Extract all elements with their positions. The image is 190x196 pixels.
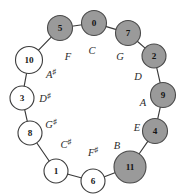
node-4[interactable]: 4	[143, 119, 168, 144]
node-11-label: 11	[126, 162, 135, 172]
node-2[interactable]: 2	[142, 44, 166, 68]
nodes-group: 07294116183105	[10, 11, 176, 194]
node-8-label: 8	[28, 128, 33, 138]
node-4-label: 4	[153, 126, 158, 136]
edge-11-6	[104, 172, 116, 176]
node-9[interactable]: 9	[151, 83, 176, 108]
edge-9-4	[158, 107, 161, 120]
edge-2-9	[157, 67, 161, 83]
note-G: G	[116, 51, 124, 62]
edge-3-10	[24, 73, 27, 87]
edge-1-8	[36, 142, 49, 161]
node-8[interactable]: 8	[18, 121, 42, 145]
edge-5-0	[72, 25, 82, 27]
edge-0-7	[106, 26, 117, 29]
node-1-label: 1	[54, 166, 59, 176]
note-Gsharp: G♯	[45, 117, 57, 130]
node-0[interactable]: 0	[82, 11, 107, 36]
edge-6-1	[67, 174, 82, 178]
node-2-label: 2	[152, 51, 157, 61]
node-9-label: 9	[161, 90, 166, 100]
node-7-label: 7	[126, 28, 131, 38]
edge-4-11	[139, 141, 148, 154]
note-A: A	[139, 97, 147, 108]
note-F: F	[64, 51, 72, 62]
node-7[interactable]: 7	[116, 21, 141, 46]
note-Asharp: A♯	[45, 67, 56, 80]
node-10-label: 10	[24, 55, 34, 65]
node-3[interactable]: 3	[10, 86, 34, 110]
node-11[interactable]: 11	[114, 151, 146, 183]
note-labels-group: CGDAEBF♯C♯G♯D♯A♯F	[38, 45, 146, 158]
node-6[interactable]: 6	[81, 169, 105, 193]
note-C: C	[88, 45, 96, 56]
figure-canvas: 07294116183105 CGDAEBF♯C♯G♯D♯A♯F	[0, 0, 190, 196]
node-10[interactable]: 10	[16, 47, 43, 74]
edge-7-2	[137, 41, 145, 48]
node-5[interactable]: 5	[48, 16, 73, 41]
note-B: B	[114, 140, 121, 151]
note-E: E	[133, 122, 141, 133]
node-0-label: 0	[92, 18, 97, 28]
note-Csharp: C♯	[61, 137, 72, 150]
pitch-class-circle-diagram: 07294116183105 CGDAEBF♯C♯G♯D♯A♯F	[0, 0, 190, 196]
note-Dsharp: D♯	[38, 91, 51, 104]
note-Fsharp: F♯	[87, 145, 98, 158]
node-5-label: 5	[58, 23, 63, 33]
edge-8-3	[25, 109, 28, 122]
edge-10-5	[38, 37, 52, 51]
node-6-label: 6	[91, 176, 96, 186]
note-D: D	[133, 71, 142, 82]
node-1[interactable]: 1	[44, 159, 68, 183]
node-3-label: 3	[20, 93, 25, 103]
